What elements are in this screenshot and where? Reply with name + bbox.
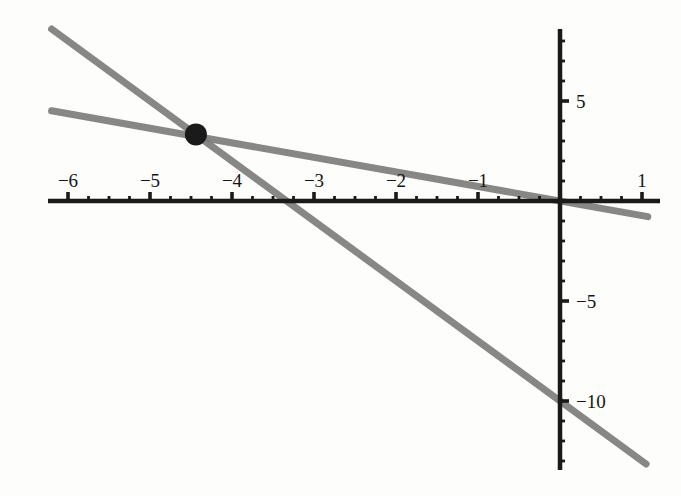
x-tick-label: −1 xyxy=(468,171,488,190)
graph-figure: −6−5−4−3−2−115−5−10 xyxy=(0,0,681,496)
coordinate-plot xyxy=(0,0,681,496)
x-tick-label: −5 xyxy=(140,171,160,190)
y-tick-label: −10 xyxy=(576,392,606,411)
intersection-point xyxy=(185,123,207,145)
line-steep-line xyxy=(52,29,647,464)
y-tick-label: 5 xyxy=(576,92,586,111)
x-tick-label: 1 xyxy=(637,171,647,190)
x-tick-label: −2 xyxy=(386,171,406,190)
y-tick-label: −5 xyxy=(576,292,596,311)
x-tick-label: −4 xyxy=(222,171,242,190)
x-tick-label: −3 xyxy=(304,171,324,190)
x-tick-label: −6 xyxy=(58,171,78,190)
